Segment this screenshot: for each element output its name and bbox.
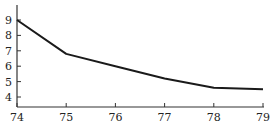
- x-tick-label: 77: [158, 111, 172, 124]
- y-tick-label: 6: [5, 60, 12, 73]
- y-tick-label: 7: [5, 45, 12, 58]
- y-tick-label: 4: [5, 91, 12, 104]
- line-chart: 456789 747576777879: [0, 0, 273, 125]
- x-tick-label: 74: [10, 111, 24, 124]
- x-tick-label: 76: [108, 111, 122, 124]
- y-tick-label: 9: [5, 14, 12, 27]
- x-tick-label: 79: [256, 111, 270, 124]
- x-tick-label: 78: [207, 111, 221, 124]
- x-axis: 747576777879: [10, 103, 270, 124]
- data-line: [17, 20, 263, 89]
- y-tick-label: 5: [5, 76, 12, 89]
- y-tick-label: 8: [5, 29, 12, 42]
- x-tick-label: 75: [59, 111, 73, 124]
